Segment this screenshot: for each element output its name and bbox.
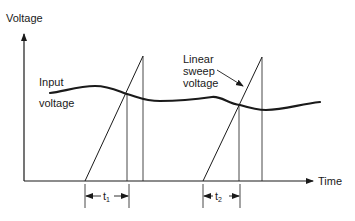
- sweep-pointer-arrow: [217, 70, 243, 86]
- t2-subscript: 2: [218, 196, 222, 203]
- diagram-canvas: [0, 0, 355, 221]
- sweep-ramp-1: [85, 56, 143, 181]
- t1-label: t1: [103, 190, 110, 206]
- sweep-voltage-label-line2: sweep: [183, 65, 215, 77]
- input-voltage-label-line1: Input: [39, 76, 63, 88]
- input-voltage-label-line2: voltage: [39, 97, 74, 109]
- sweep-voltage-label-line3: voltage: [183, 77, 218, 89]
- t1-subscript: 1: [106, 196, 110, 203]
- sweep-voltage-label-line1: Linear: [183, 53, 214, 65]
- x-axis-label: Time: [318, 175, 342, 187]
- input-voltage-curve: [50, 86, 320, 110]
- sweep-voltage-diagram: Voltage Time Input voltage Linear sweep …: [0, 0, 355, 221]
- t2-label: t2: [215, 190, 222, 206]
- y-axis-label: Voltage: [6, 12, 43, 24]
